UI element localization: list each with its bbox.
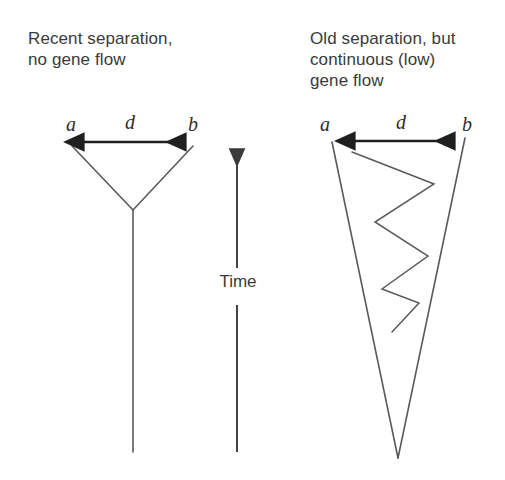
time-axis-label: Time (208, 272, 268, 292)
figure-root: Recent separation, no gene flow Old sepa… (0, 0, 505, 480)
diagram-canvas (0, 0, 505, 480)
right-distance-label: d (396, 112, 406, 132)
right-panel-tree (332, 138, 465, 458)
right-tree-branch-a (332, 142, 398, 458)
right-tip-label-a: a (320, 114, 330, 134)
left-panel-tree (72, 146, 193, 452)
left-distance-label: d (125, 112, 135, 132)
left-tree-branch-b (133, 146, 193, 210)
left-tree-branch-a (72, 146, 133, 210)
right-tip-label-b: b (462, 114, 472, 134)
left-tip-label-b: b (188, 114, 198, 134)
gene-flow-zigzag-path (352, 152, 434, 332)
left-tip-label-a: a (66, 114, 76, 134)
